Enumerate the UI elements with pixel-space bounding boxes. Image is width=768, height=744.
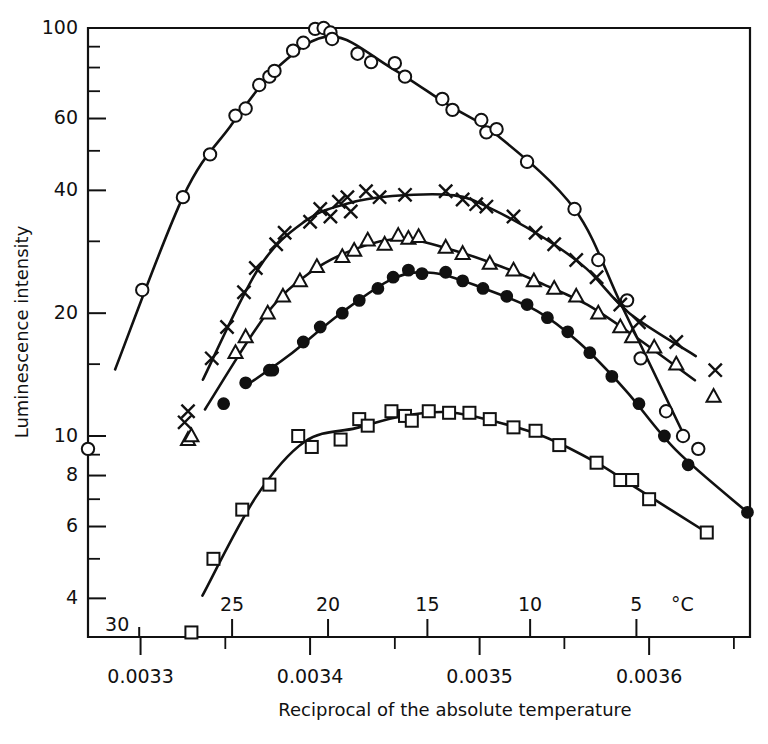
marker-square-open xyxy=(508,421,520,433)
marker-circle-open xyxy=(568,203,580,215)
marker-circle-filled xyxy=(477,283,488,294)
marker-circle-filled xyxy=(440,267,451,278)
celsius-tick-label: 10 xyxy=(518,593,542,615)
celsius-tick-label: 20 xyxy=(316,593,340,615)
marker-square-open xyxy=(643,493,655,505)
marker-square-open xyxy=(701,527,713,539)
celsius-tick-label: 5 xyxy=(630,593,642,615)
marker-triangle-open xyxy=(412,229,426,242)
marker-circle-open xyxy=(326,33,338,45)
marker-triangle-open xyxy=(361,233,375,246)
marker-square-open xyxy=(306,441,318,453)
marker-circle-open xyxy=(351,47,363,59)
marker-cross xyxy=(181,405,194,418)
series-curve-open-square xyxy=(202,412,706,596)
marker-circle-open xyxy=(389,57,401,69)
marker-cross xyxy=(480,200,493,213)
plot-border xyxy=(88,28,750,637)
marker-cross xyxy=(439,185,452,198)
marker-square-open xyxy=(185,626,197,638)
celsius-axis-ticks xyxy=(139,619,636,637)
x-axis-ticks xyxy=(141,637,734,655)
marker-cross xyxy=(570,253,583,266)
luminescence-intensity-chart: 10060402010864 0.00330.00340.00350.0036 … xyxy=(0,0,768,744)
y-tick-label: 8 xyxy=(66,463,78,485)
y-tick-label: 10 xyxy=(54,424,78,446)
marker-square-open xyxy=(626,474,638,486)
y-tick-label: 60 xyxy=(54,106,78,128)
series-curve-cross xyxy=(203,194,696,380)
marker-square-open xyxy=(385,405,397,417)
marker-circle-filled xyxy=(457,275,468,286)
marker-circle-filled xyxy=(584,347,595,358)
marker-circle-open xyxy=(634,352,646,364)
series-curve-filled-circle xyxy=(246,272,747,512)
x-axis-title: Reciprocal of the absolute temperature xyxy=(278,699,631,720)
marker-square-open xyxy=(236,504,248,516)
marker-triangle-open xyxy=(347,243,361,256)
marker-triangle-open xyxy=(707,389,721,402)
celsius-tick-label: 30 xyxy=(105,613,129,635)
marker-circle-filled xyxy=(562,326,573,337)
marker-square-open xyxy=(423,405,435,417)
marker-circle-filled xyxy=(683,459,694,470)
x-tick-label: 0.0034 xyxy=(277,665,343,687)
marker-circle-filled xyxy=(403,265,414,276)
marker-cross xyxy=(324,210,337,223)
marker-circle-filled xyxy=(633,398,644,409)
marker-triangle-open xyxy=(527,273,541,286)
celsius-tick-label: 25 xyxy=(220,593,244,615)
marker-square-open xyxy=(463,407,475,419)
marker-circle-filled xyxy=(416,268,427,279)
marker-cross xyxy=(548,238,561,251)
marker-square-open xyxy=(335,434,347,446)
marker-square-open xyxy=(263,479,275,491)
marker-circle-filled xyxy=(218,398,229,409)
marker-square-open xyxy=(484,413,496,425)
marker-circle-filled xyxy=(337,308,348,319)
marker-square-open xyxy=(362,420,374,432)
marker-circle-filled xyxy=(298,336,309,347)
x-tick-label: 0.0035 xyxy=(446,665,512,687)
marker-circle-open xyxy=(297,37,309,49)
data-curves xyxy=(115,36,747,595)
marker-circle-open xyxy=(592,254,604,266)
x-tick-label: 0.0036 xyxy=(616,665,682,687)
y-tick-label: 100 xyxy=(42,16,78,38)
marker-circle-filled xyxy=(240,377,251,388)
marker-circle-filled xyxy=(315,321,326,332)
marker-triangle-open xyxy=(483,256,497,269)
y-axis-title: Luminescence intensity xyxy=(11,225,32,438)
x-axis-tick-labels: 0.00330.00340.00350.0036 xyxy=(107,665,682,687)
marker-circle-filled xyxy=(521,299,532,310)
marker-circle-open xyxy=(136,284,148,296)
marker-circle-open xyxy=(660,405,672,417)
series-markers-filled-circle xyxy=(218,265,753,518)
marker-square-open xyxy=(553,439,565,451)
y-axis-tick-labels: 10060402010864 xyxy=(42,16,78,608)
marker-circle-open xyxy=(521,156,533,168)
y-tick-label: 4 xyxy=(66,586,78,608)
marker-square-open xyxy=(614,474,626,486)
marker-circle-filled xyxy=(388,272,399,283)
series-markers-cross xyxy=(178,185,722,429)
marker-cross xyxy=(344,205,357,218)
y-tick-label: 20 xyxy=(54,301,78,323)
marker-circle-open xyxy=(475,114,487,126)
marker-circle-filled xyxy=(354,295,365,306)
marker-cross xyxy=(590,271,603,284)
y-tick-label: 40 xyxy=(54,178,78,200)
marker-circle-open xyxy=(239,102,251,114)
marker-square-open xyxy=(207,553,219,565)
marker-circle-filled xyxy=(501,291,512,302)
marker-circle-open xyxy=(677,430,689,442)
marker-cross xyxy=(456,193,469,206)
marker-circle-open xyxy=(204,148,216,160)
marker-cross xyxy=(270,238,283,251)
y-axis-ticks xyxy=(88,28,106,598)
marker-circle-filled xyxy=(742,507,753,518)
marker-circle-open xyxy=(621,294,633,306)
celsius-unit-label: °C xyxy=(671,593,694,615)
marker-circle-open xyxy=(365,56,377,68)
marker-circle-open xyxy=(399,70,411,82)
